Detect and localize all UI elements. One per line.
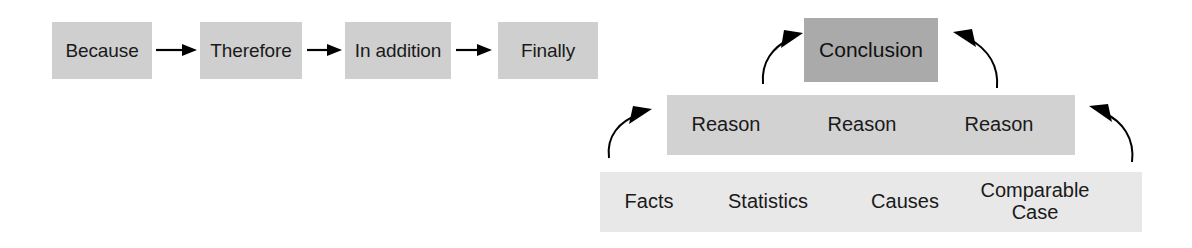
conclusion-label: Conclusion — [819, 39, 923, 61]
chain-arrow-2 — [307, 44, 342, 56]
arrow-reason-to-conclusion-right — [953, 29, 997, 88]
reason-label-3: Reason — [940, 95, 1058, 155]
chain-box-because: Because — [52, 22, 152, 79]
evidence-label-statistics: Statistics — [712, 172, 824, 232]
reason-label-2: Reason — [803, 95, 921, 155]
chain-box-label: Therefore — [210, 41, 291, 61]
chain-box-label: Finally — [521, 41, 575, 61]
chain-arrow-3 — [456, 44, 492, 56]
chain-arrow-1 — [156, 44, 197, 56]
reason-label-1: Reason — [667, 95, 785, 155]
evidence-label-facts: Facts — [608, 172, 690, 232]
arrow-evidence-to-reason-left — [609, 106, 652, 158]
chain-box-finally: Finally — [498, 22, 598, 79]
evidence-label-causes: Causes — [855, 172, 955, 232]
chain-box-label: Because — [65, 41, 138, 61]
arrow-reason-to-conclusion-left — [763, 30, 803, 84]
arrow-evidence-to-reason-right — [1089, 104, 1132, 162]
conclusion-box: Conclusion — [804, 18, 938, 82]
argument-diagram: Because Therefore In addition Finally Co… — [0, 0, 1192, 248]
chain-box-therefore: Therefore — [200, 22, 302, 79]
chain-box-in-addition: In addition — [345, 22, 451, 79]
evidence-label-comparable-case: Comparable Case — [970, 172, 1100, 232]
chain-box-label: In addition — [355, 41, 442, 61]
